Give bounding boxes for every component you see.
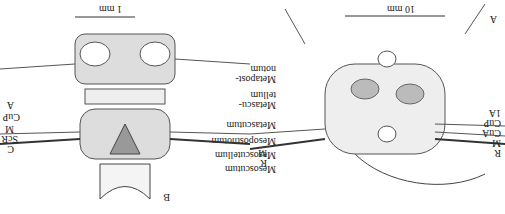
- label-a-1a: 1A: [489, 108, 501, 118]
- label-a-m: M: [492, 138, 501, 148]
- figure: A 10 mm R M CuA CuP 1A R M Mesoscutum Me…: [0, 0, 505, 214]
- label-b-a: A: [7, 100, 14, 110]
- panel-a-scale-bar: 10 mm: [387, 4, 415, 14]
- panel-a-letter: A: [490, 14, 497, 24]
- label-b-m: M: [5, 124, 14, 134]
- label-b-scr: ScR: [1, 134, 18, 144]
- label-a-cua: CuA: [482, 128, 501, 138]
- panel-b-scale-bar: 1 mm: [99, 4, 122, 14]
- label-a-cup: CuP: [484, 118, 501, 128]
- panel-b: B 1 mm C ScR M CuP A: [0, 0, 250, 214]
- panel-a: A 10 mm R M CuA CuP 1A R M: [250, 0, 505, 214]
- label-b-cup: CuP: [3, 112, 20, 122]
- panel-b-letter: B: [163, 192, 170, 202]
- panel-a-drawing: [250, 0, 505, 214]
- label-a-r: R: [494, 148, 501, 158]
- label-b-c: C: [7, 144, 14, 154]
- panel-b-drawing: [0, 0, 250, 214]
